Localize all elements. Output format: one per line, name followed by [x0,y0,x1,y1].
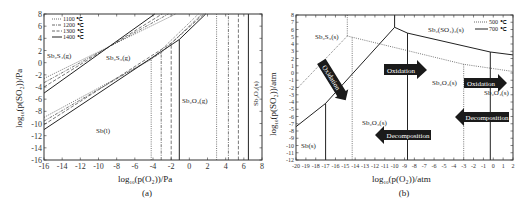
y-tick-label: 8 [38,10,42,19]
y-tick-label: 4 [291,41,294,47]
x-tick-label: -8 [113,162,120,171]
x-tick-label: -7 [422,163,427,169]
y-tick-label: -2 [289,85,294,91]
x-tick-label: -5 [441,163,446,169]
legend-700: 700 ℃ [489,26,507,32]
region-sb2s3-g: Sb₂S₃(g) [106,54,131,62]
y-tick-label: -6 [35,95,42,104]
x-tick-label: -14 [351,163,359,169]
x-tick-label: 1 [502,163,505,169]
region-sb2o4-s: Sb₂O₄(s) [252,81,260,106]
legend-1400: 1400 ℃ [63,34,84,40]
y-tick-label: -10 [31,120,42,129]
y-tick-label: -9 [289,135,294,141]
svg-text:Oxidation: Oxidation [467,80,495,88]
x-tick-label: -13 [361,163,369,169]
x-tick-label: -19 [302,163,310,169]
y-tick-label: -8 [289,128,294,134]
region-sb-l: Sb(l) [96,127,111,135]
chart-a-predominance-diagram: -16-14-12-10-8-6-4-20246886420-2-4-6-8-1… [14,10,264,198]
x-tick-label: -16 [331,163,339,169]
boundary-line [347,36,513,72]
x-tick-label: -6 [131,162,138,171]
y-tick-label: -6 [289,114,294,120]
y-tick-label: 0 [291,70,294,76]
y-tick-label: 6 [38,22,42,31]
y-tick-label: 7 [291,19,294,25]
x-tick-label: -10 [391,163,399,169]
x-tick-label: 0 [492,163,495,169]
y-tick-label: -10 [286,143,294,149]
y-tick-label: -11 [286,150,294,156]
x-tick-label: 0 [187,162,191,171]
region-sb2o3-g: Sb₂O₃(g) [182,97,208,105]
y-tick-label: 1 [291,63,294,69]
x-tick-label: -12 [75,162,86,171]
arrow-decomposition-lower: Decomposition [375,126,431,144]
x-tick-label: -9 [402,163,407,169]
y-tick-label: 4 [38,34,42,43]
y-tick-label: 0 [38,59,42,68]
y-tick-label: 6 [291,27,294,33]
phase-diagram-figure: -16-14-12-10-8-6-4-20246886420-2-4-6-8-1… [0,0,526,205]
y-tick-label: -4 [289,99,294,105]
x-tick-label: -15 [341,163,349,169]
x-tick-label: 2 [512,163,515,169]
x-tick-label: -20 [292,163,300,169]
chart-a-subtitle: (a) [142,188,152,198]
region-sb2o3-s-lower: Sb₂O₃(s) [362,119,387,127]
region-sb-s: Sb(s) [301,142,316,150]
y-tick-label: -8 [35,107,42,116]
y-tick-label: -12 [31,132,42,141]
x-tick-label: -4 [451,163,456,169]
chart-b-y-axis-label: log10(p(SO₂))/atm [268,72,279,136]
x-tick-label: 2 [206,162,210,171]
x-tick-label: -2 [471,163,476,169]
svg-text:Decomposition: Decomposition [387,132,430,140]
y-tick-label: 5 [291,34,294,40]
x-tick-label: -10 [93,162,104,171]
chart-b-subtitle: (b) [399,188,410,198]
x-tick-label: -11 [381,163,389,169]
y-tick-label: -14 [31,144,42,153]
y-tick-label: -4 [35,83,42,92]
chart-a-x-axis-label: log10(p(O₂))/Pa [118,174,172,185]
x-tick-label: -12 [371,163,379,169]
region-sb2s3-s: Sb₂S₃(s) [315,33,339,41]
arrow-oxidation-middle: Oxidation [384,60,427,79]
y-tick-label: -7 [289,121,294,127]
y-tick-label: 3 [291,48,294,54]
x-tick-label: 6 [242,162,246,171]
y-tick-label: -1 [289,77,294,83]
x-tick-label: 4 [224,162,228,171]
x-tick-label: -1 [481,163,486,169]
y-tick-label: 8 [291,12,294,18]
svg-text:Oxidation: Oxidation [387,67,415,75]
x-tick-label: -8 [412,163,417,169]
svg-text:Decomposition: Decomposition [466,114,509,122]
chart-b-predominance-diagram: -20-19-18-17-16-15-14-13-12-11-10-9-8-7-… [268,12,515,198]
region-sb2o4-s: Sb₂O₄(s) [484,89,509,97]
y-tick-label: -16 [31,156,42,165]
y-tick-label: 2 [38,47,42,56]
y-tick-label: -12 [286,157,294,163]
x-tick-label: -6 [432,163,437,169]
arrow-decomposition-right: Decomposition [455,108,509,126]
region-sb2s4-g: Sb₂S₄(g) [47,52,72,60]
legend-500: 500 ℃ [489,19,507,25]
chart-a-y-axis-label: log10(p(SO₂))/Pa [14,69,25,128]
y-tick-label: 2 [291,56,294,62]
chart-b-x-axis-label: log10(p(O₂))/atm [372,174,431,185]
region-sb2so43-s: Sb₂(SO₄)₃(s) [428,26,464,34]
x-tick-label: -14 [57,162,68,171]
chart-b-legend: 500 ℃ 700 ℃ [474,19,507,32]
y-tick-label: -5 [289,106,294,112]
x-tick-label: -17 [322,163,330,169]
x-tick-label: -2 [168,162,175,171]
y-tick-label: -3 [289,92,294,98]
boundary-line [296,27,395,126]
y-tick-label: -2 [35,71,42,80]
chart-a-legend: 1100 ℃ 1200 ℃ 1300 ℃ 1400 ℃ [52,16,84,40]
region-sb2o3-s-upper: Sb₂O₃(s) [432,79,457,87]
x-tick-label: -4 [150,162,157,171]
